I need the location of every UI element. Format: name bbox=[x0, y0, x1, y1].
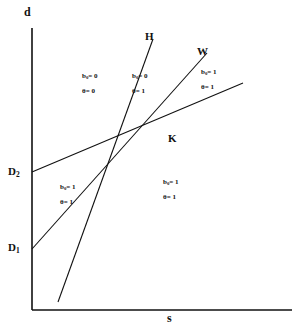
point-label-k: K bbox=[168, 133, 177, 144]
line-d2-k bbox=[32, 83, 243, 172]
region-lower-right: b0= 1 θ= 1 bbox=[163, 178, 179, 201]
point-label-d2: D2 bbox=[8, 166, 20, 177]
region-upper-right: b0= 1 θ= 1 bbox=[201, 68, 217, 91]
region-lower-left-b0: b0= 1 bbox=[60, 183, 76, 191]
region-upper-middle-theta: θ= 1 bbox=[132, 87, 148, 95]
figure-canvas: d s D2 D1 K H W b0= 0 θ= 0 b0= 0 θ= 1 b0… bbox=[0, 0, 308, 330]
line-label-w: W bbox=[197, 46, 208, 57]
region-upper-left-theta: θ= 0 bbox=[82, 87, 98, 95]
y-axis-label: d bbox=[24, 6, 31, 18]
region-upper-left: b0= 0 θ= 0 bbox=[82, 72, 98, 95]
line-w bbox=[32, 53, 207, 249]
region-upper-right-b0: b0= 1 bbox=[201, 68, 217, 76]
diagram-svg bbox=[0, 0, 308, 330]
region-lower-right-b0: b0= 1 bbox=[163, 178, 179, 186]
region-lower-left-theta: θ= 1 bbox=[60, 198, 76, 206]
region-upper-middle: b0= 0 θ= 1 bbox=[132, 72, 148, 95]
region-lower-right-theta: θ= 1 bbox=[163, 193, 179, 201]
point-label-d1: D1 bbox=[8, 242, 20, 253]
x-axis-label: s bbox=[167, 312, 172, 324]
region-upper-middle-b0: b0= 0 bbox=[132, 72, 148, 80]
line-label-h: H bbox=[145, 31, 154, 42]
region-lower-left: b0= 1 θ= 1 bbox=[60, 183, 76, 206]
region-upper-right-theta: θ= 1 bbox=[201, 83, 217, 91]
region-upper-left-b0: b0= 0 bbox=[82, 72, 98, 80]
